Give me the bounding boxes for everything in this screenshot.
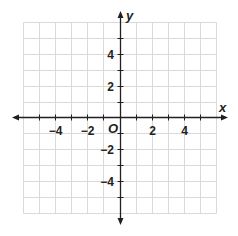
y-tick-label-neg4: −4 <box>100 175 114 189</box>
y-tick-label-neg2: −2 <box>100 143 114 157</box>
x-axis-right-arrow-icon <box>221 115 228 121</box>
y-axis-label: y <box>125 8 134 23</box>
x-tick-label-2: 2 <box>149 124 156 138</box>
y-tick-label-4: 4 <box>107 48 114 62</box>
y-tick-label-2: 2 <box>107 80 114 94</box>
x-tick-label-4: 4 <box>181 124 188 138</box>
x-axis-left-arrow-icon <box>12 115 19 121</box>
x-tick-label-neg2: −2 <box>81 124 95 138</box>
y-axis-top-arrow-icon <box>118 11 124 18</box>
x-axis-label: x <box>218 100 227 115</box>
origin-label: O <box>108 121 118 136</box>
coordinate-plane: y x O −4 −2 2 4 4 2 −2 −4 <box>0 0 238 236</box>
x-tick-label-neg4: −4 <box>49 124 63 138</box>
y-axis-bottom-arrow-icon <box>118 218 124 225</box>
